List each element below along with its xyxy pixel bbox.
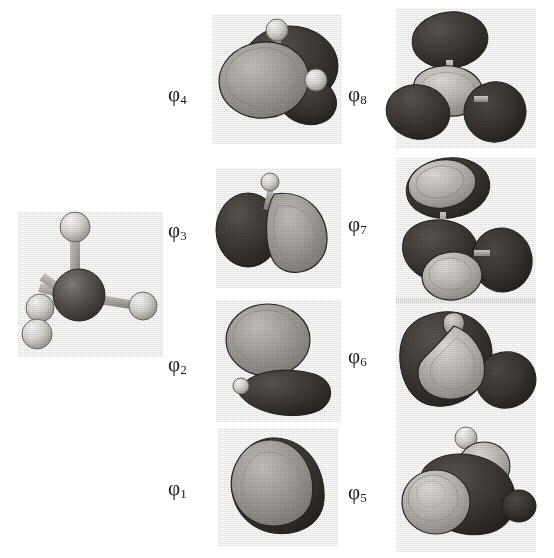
orbital-render-phi7	[396, 158, 536, 303]
orbital-render-phi6	[396, 298, 536, 430]
orbital-label-phi1: φ1	[168, 476, 187, 501]
hydrogen-sphere	[233, 378, 249, 394]
orbital-render-phi4	[212, 14, 342, 144]
hydrogen-atom-top	[60, 212, 90, 242]
hydrogen-sphere	[261, 173, 279, 191]
hydrogen-atom-left	[26, 294, 54, 322]
orbital-label-phi5: φ5	[348, 480, 367, 505]
carbon-atom	[53, 269, 105, 321]
hydrogen-atom-right	[129, 292, 157, 320]
orbital-render-phi8	[396, 8, 536, 148]
orbital-label-phi3: φ3	[168, 218, 187, 243]
orbital-render-phi1	[218, 428, 338, 546]
orbital-label-phi6: φ6	[348, 344, 367, 369]
orbital-render-phi5	[396, 430, 536, 552]
orbital-label-phi8: φ8	[348, 82, 367, 107]
methane-molecule-model	[18, 212, 163, 357]
orbital-render-phi3	[216, 168, 341, 288]
molecular-orbital-figure: φ4 φ3 φ2	[0, 0, 554, 558]
hydrogen-sphere	[266, 19, 288, 41]
orbital-label-phi7: φ7	[348, 212, 367, 237]
orbital-render-phi2	[216, 300, 341, 422]
orbital-label-phi4: φ4	[168, 82, 187, 107]
hydrogen-atom-front	[22, 319, 52, 349]
orbital-label-phi2: φ2	[168, 352, 187, 377]
